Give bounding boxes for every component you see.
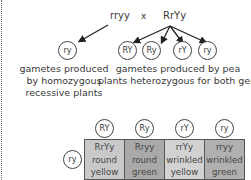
hetero-gamete-circle-RY: RY — [118, 41, 137, 60]
heterozygous-label: gametes produced by pea plants heterozyg… — [98, 63, 251, 87]
cell-shape: wrinkled — [205, 154, 244, 167]
label-line: recessive plants — [8, 87, 120, 99]
punnett-row-header-ry: ry — [63, 150, 82, 169]
punnett-cell-Rryy: Rryy round green — [124, 139, 165, 180]
punnett-cell-rryy: rryy wrinkled green — [204, 139, 245, 180]
homozygous-gamete-circle: ry — [58, 41, 77, 60]
cell-color: green — [205, 166, 244, 179]
parent-right-genotype: RrYy — [163, 10, 186, 21]
hetero-gamete-circle-rY: rY — [173, 41, 192, 60]
cross-symbol: x — [141, 11, 146, 21]
cell-color: yellow — [85, 166, 124, 179]
punnett-col-header-RY: RY — [95, 119, 114, 138]
cell-color: green — [125, 166, 164, 179]
label-line: gametes produced by pea — [98, 63, 251, 75]
cell-genotype: rryy — [205, 141, 244, 154]
punnett-cell-RrYy: RrYy round yellow — [84, 139, 125, 180]
label-line: plants heterozygous for both genes — [98, 75, 251, 87]
cell-shape: round — [85, 154, 124, 167]
cell-genotype: RrYy — [85, 141, 124, 154]
punnett-col-header-ry: ry — [215, 119, 234, 138]
cell-color: yellow — [165, 166, 204, 179]
punnett-cell-rrYy: rrYy wrinkled yellow — [164, 139, 205, 180]
cell-genotype: rrYy — [165, 141, 204, 154]
cell-shape: round — [125, 154, 164, 167]
parent-left-genotype: rryy — [110, 10, 130, 21]
punnett-col-header-rY: rY — [175, 119, 194, 138]
punnett-col-header-Ry: Ry — [135, 119, 154, 138]
cell-shape: wrinkled — [165, 154, 204, 167]
cell-genotype: Rryy — [125, 141, 164, 154]
hetero-gamete-circle-Ry: Ry — [142, 41, 161, 60]
hetero-gamete-circle-ry: ry — [198, 41, 217, 60]
